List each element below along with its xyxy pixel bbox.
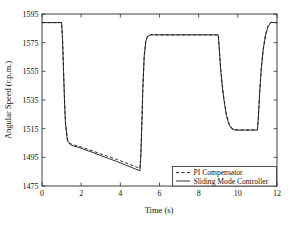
y-tick-label: 1575 (23, 39, 39, 48)
chart-legend: PI Compensator Sliding Mode Controller (173, 167, 277, 187)
x-tick-label: 0 (40, 189, 44, 198)
figure-container: 1475149515151535155515751595 024681012 A… (0, 0, 292, 227)
y-tick-label: 1515 (23, 125, 39, 134)
x-tick-label: 8 (197, 189, 201, 198)
y-tick-label: 1555 (23, 67, 39, 76)
x-tick-label: 2 (79, 189, 83, 198)
y-tick-label: 1475 (23, 182, 39, 191)
x-axis-title: Time (s) (145, 205, 174, 215)
x-tick-label: 6 (158, 189, 162, 198)
x-tick-label: 10 (234, 189, 242, 198)
x-tick-label: 4 (118, 189, 122, 198)
y-tick-label: 1595 (23, 10, 39, 19)
y-tick-label: 1535 (23, 96, 39, 105)
y-tick-label: 1495 (23, 153, 39, 162)
x-tick-label: 12 (273, 189, 281, 198)
angular-speed-line-chart: 1475149515151535155515751595 024681012 A… (0, 0, 292, 227)
legend-label-sliding-mode-controller: Sliding Mode Controller (194, 177, 269, 186)
y-axis-title: Angular Speed (r.p.m.) (3, 61, 13, 139)
